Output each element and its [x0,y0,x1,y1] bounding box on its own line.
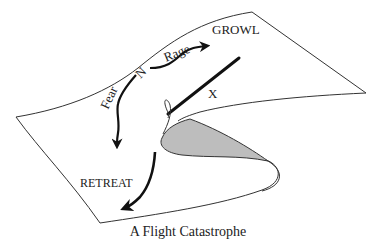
surface-right-edge [252,12,366,93]
growl-label: GROWL [212,22,260,37]
catastrophe-surface-diagram: GROWL Rage N Fear X RETREAT [0,0,376,246]
surface-right-lower-edge [178,93,366,121]
figure-caption: A Flight Catastrophe [0,224,376,240]
fold-curve [262,161,279,191]
surface-left-edge [16,117,100,223]
surface-bottom-edge [100,160,278,223]
fold-shaded-region [161,119,268,161]
rage-label: Rage [162,41,193,65]
fear-arrow [117,75,136,145]
retreat-label: RETREAT [80,176,133,190]
n-label: N [132,64,150,82]
x-label: X [208,86,218,101]
